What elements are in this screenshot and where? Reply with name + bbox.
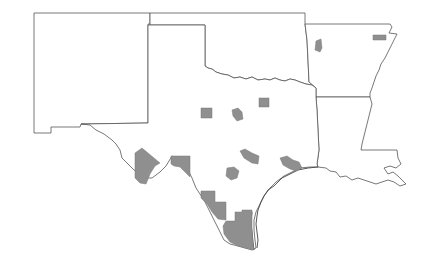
highlight-area-ar-northeast <box>373 35 386 40</box>
map-svg <box>0 0 433 266</box>
highlight-area-tx-north-central-west <box>201 108 212 118</box>
highlight-area-tx-north-central-east <box>259 98 269 107</box>
state-new-mexico <box>34 13 150 133</box>
highlight-area-tx-southwest <box>171 156 190 177</box>
highlight-area-ar-northwest <box>315 39 322 52</box>
map-container <box>0 0 433 266</box>
state-louisiana <box>316 97 406 186</box>
